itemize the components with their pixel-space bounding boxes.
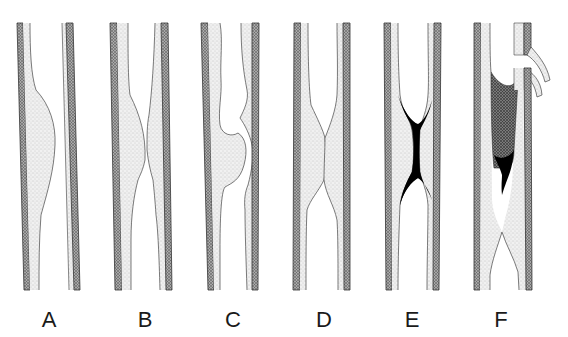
panel-d [293, 23, 350, 290]
panel-c [201, 23, 259, 290]
panel-label-a: A [34, 308, 64, 332]
panel-label-d: D [309, 308, 339, 332]
panel-label-f: F [486, 308, 516, 332]
panel-f [474, 23, 550, 290]
panel-b [110, 23, 172, 290]
panel-a [17, 23, 80, 290]
panel-label-e: E [397, 308, 427, 332]
panel-label-c: C [218, 308, 248, 332]
panel-e [384, 23, 441, 290]
panel-label-b: B [130, 308, 160, 332]
vessel-diagram [0, 0, 568, 337]
branch-upper-stub [514, 23, 524, 55]
